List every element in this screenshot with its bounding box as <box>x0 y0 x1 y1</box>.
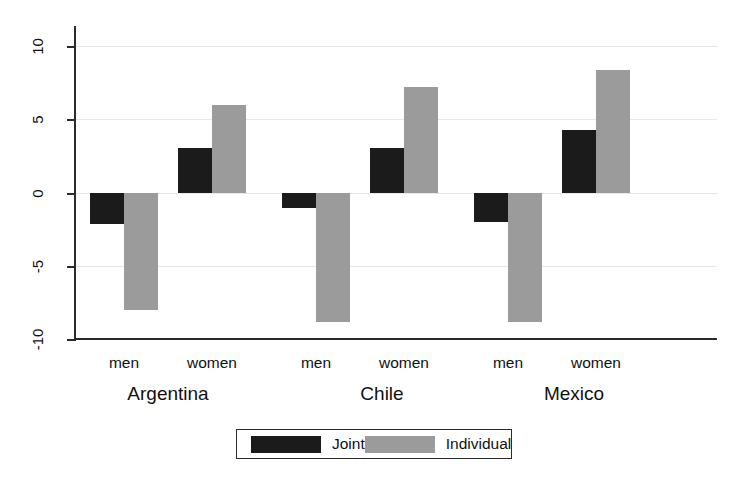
legend-label-joint: Joint <box>332 435 365 453</box>
bar-mexico-women-joint <box>562 130 596 193</box>
y-tick-label-0: 0 <box>29 179 46 209</box>
legend-label-individual: Individual <box>446 435 512 453</box>
y-tick-mark-neg10 <box>67 339 76 341</box>
x-sub-label-mexico-men: men <box>493 354 523 372</box>
bar-chile-women-joint <box>370 148 404 193</box>
y-tick-mark-5 <box>67 119 76 121</box>
bar-mexico-men-individual <box>508 193 542 322</box>
x-sub-label-argentina-men: men <box>109 354 139 372</box>
x-group-label-argentina: Argentina <box>127 383 208 405</box>
bar-chile-men-individual <box>316 193 350 322</box>
individual-swatch-icon <box>365 436 435 453</box>
bar-argentina-women-joint <box>178 148 212 193</box>
y-axis-line <box>74 26 76 341</box>
bar-mexico-men-joint <box>474 193 508 222</box>
y-tick-label-neg10: -10 <box>29 325 46 355</box>
bar-chile-women-individual <box>404 87 438 193</box>
x-sub-label-argentina-women: women <box>187 354 237 372</box>
legend-item-joint[interactable]: Joint <box>251 435 365 453</box>
y-tick-mark-neg5 <box>67 266 76 268</box>
x-sub-label-chile-women: women <box>379 354 429 372</box>
y-tick-mark-0 <box>67 193 76 195</box>
chart-legend: Joint Individual <box>236 429 512 459</box>
gridline-0 <box>76 193 717 194</box>
x-sub-label-mexico-women: women <box>571 354 621 372</box>
x-group-label-mexico: Mexico <box>544 383 604 405</box>
bar-chart: 10 5 0 -5 -10 men women men women men wo… <box>0 0 742 491</box>
y-tick-label-10: 10 <box>29 32 46 62</box>
y-tick-mark-10 <box>67 46 76 48</box>
x-group-label-chile: Chile <box>360 383 403 405</box>
y-tick-label-5: 5 <box>29 105 46 135</box>
bar-chile-men-joint <box>282 193 316 208</box>
bar-argentina-men-joint <box>90 193 124 224</box>
bar-mexico-women-individual <box>596 70 630 193</box>
gridline-neg5 <box>76 266 717 267</box>
x-sub-label-chile-men: men <box>301 354 331 372</box>
joint-swatch-icon <box>251 436 321 453</box>
y-tick-label-neg5: -5 <box>29 252 46 282</box>
bar-argentina-women-individual <box>212 105 246 193</box>
gridline-10 <box>76 46 717 47</box>
legend-item-individual[interactable]: Individual <box>365 435 512 453</box>
x-axis-line <box>74 338 717 340</box>
bar-argentina-men-individual <box>124 193 158 310</box>
